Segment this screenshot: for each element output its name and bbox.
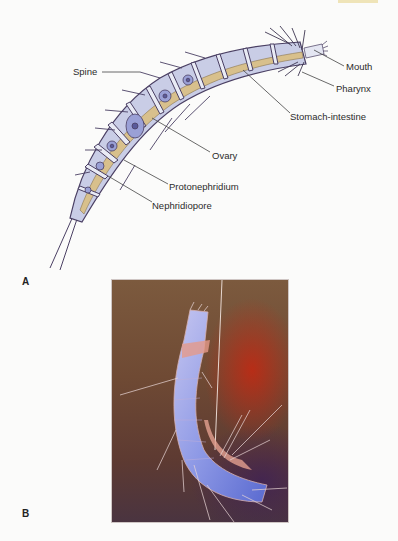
- label-pharynx: Pharynx: [336, 83, 371, 94]
- specimen-image: [112, 280, 288, 522]
- label-ovary: Ovary: [212, 150, 237, 161]
- tail-spines: [50, 214, 78, 270]
- panel-letter-a: A: [22, 276, 29, 287]
- panel-b-micrograph: [111, 279, 289, 523]
- label-stomach-intestine: Stomach-intestine: [290, 111, 366, 122]
- kinorhynch-drawing: [0, 0, 398, 280]
- body: [70, 42, 306, 222]
- label-spine: Spine: [73, 66, 97, 77]
- label-nephridiopore: Nephridiopore: [152, 200, 212, 211]
- panel-letter-b: B: [22, 508, 29, 519]
- panel-a-diagram: Spine Mouth Pharynx Stomach-intestine Ov…: [0, 0, 398, 280]
- label-mouth: Mouth: [346, 61, 372, 72]
- label-protonephridium: Protonephridium: [169, 181, 239, 192]
